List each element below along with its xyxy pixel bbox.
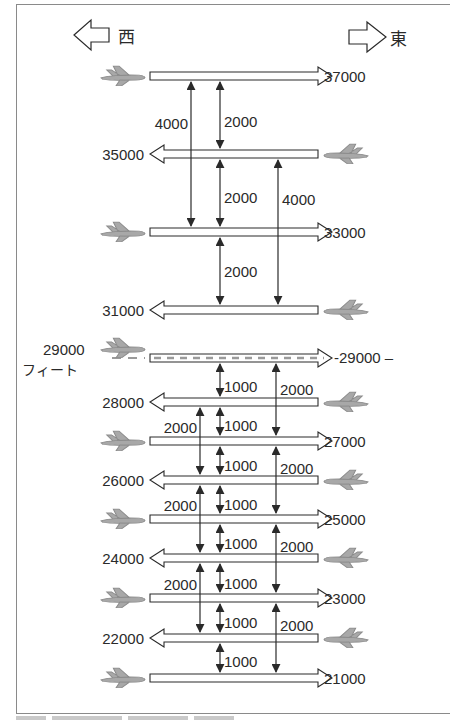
airplane-icon bbox=[101, 66, 145, 86]
separation-label: 2000 bbox=[224, 113, 257, 130]
separation-28000-27000: 1000 bbox=[220, 408, 257, 435]
east-direction: 東 bbox=[349, 22, 407, 52]
right-arrow-icon bbox=[349, 22, 386, 52]
separation-label: 4000 bbox=[282, 191, 315, 208]
airplane-icon bbox=[101, 588, 145, 608]
separation-27000-26000: 1000 bbox=[220, 447, 257, 474]
separation-label: 2000 bbox=[280, 617, 313, 634]
altitude-label: 25000 bbox=[324, 511, 366, 528]
airplane-icon bbox=[101, 431, 145, 451]
east-label: 東 bbox=[390, 29, 407, 49]
altitude-label: 35000 bbox=[102, 146, 144, 163]
eastbound-track-arrow bbox=[150, 349, 332, 367]
airplane-icon bbox=[324, 392, 368, 412]
airplane-icon bbox=[101, 222, 145, 242]
flight-level-35000: 35000 bbox=[102, 144, 368, 164]
airplane-icon bbox=[324, 548, 368, 568]
altitude-label: 27000 bbox=[324, 433, 366, 450]
altitude-label-left: 29000 bbox=[43, 341, 85, 358]
separation-label: 4000 bbox=[155, 115, 188, 132]
flight-levels: 37000350003300031000-29000 –290002800027… bbox=[43, 66, 394, 688]
separation-label: 2000 bbox=[280, 538, 313, 555]
eastbound-track-arrow bbox=[150, 669, 332, 687]
flight-level-diagram: 西 東 37000350003300031000-29000 –29000280… bbox=[0, 0, 451, 723]
airplane-icon bbox=[324, 470, 368, 490]
flight-level-33000: 33000 bbox=[101, 222, 366, 242]
separation-33000-31000: 2000 bbox=[220, 238, 257, 304]
separation-label: 1000 bbox=[224, 457, 257, 474]
separation-label: 1000 bbox=[224, 378, 257, 395]
unit-label: フィート bbox=[22, 362, 78, 378]
flight-level-31000: 31000 bbox=[102, 300, 368, 320]
altitude-label: 37000 bbox=[324, 68, 366, 85]
airplane-icon bbox=[324, 300, 368, 320]
separation-label: 2000 bbox=[164, 497, 197, 514]
separation-23000-22000: 1000 bbox=[220, 604, 257, 632]
separation-35000-33000: 2000 bbox=[220, 160, 257, 226]
separation-label: 2000 bbox=[164, 576, 197, 593]
separation-markers: 4000200020004000200010002000200010001000… bbox=[155, 82, 316, 672]
separation-label: 1000 bbox=[224, 417, 257, 434]
altitude-label: 24000 bbox=[102, 550, 144, 567]
flight-level-28000: 28000 bbox=[102, 392, 368, 412]
separation-label: 1000 bbox=[224, 496, 257, 513]
separation-25000-24000: 1000 bbox=[220, 525, 257, 552]
separation-label: 1000 bbox=[224, 614, 257, 631]
separation-22000-21000: 1000 bbox=[220, 644, 257, 672]
separation-label: 1000 bbox=[224, 535, 257, 552]
airplane-icon bbox=[101, 668, 145, 688]
altitude-label: 33000 bbox=[324, 224, 366, 241]
westbound-track-arrow bbox=[150, 301, 318, 319]
altitude-label: 26000 bbox=[102, 472, 144, 489]
airplane-icon bbox=[324, 628, 368, 648]
left-arrow-icon bbox=[74, 20, 109, 50]
altitude-label: 31000 bbox=[102, 302, 144, 319]
altitude-label: 23000 bbox=[324, 590, 366, 607]
flight-level-21000: 21000 bbox=[101, 668, 366, 688]
westbound-track-arrow bbox=[150, 145, 318, 163]
flight-level-37000: 37000 bbox=[101, 66, 366, 86]
airplane-icon bbox=[101, 338, 145, 358]
separation-37000-35000: 2000 bbox=[220, 82, 257, 148]
figure-caption-cropped bbox=[16, 716, 450, 723]
altitude-label: 21000 bbox=[324, 670, 366, 687]
separation-label: 2000 bbox=[280, 460, 313, 477]
separation-label: 2000 bbox=[224, 189, 257, 206]
separation-label: 2000 bbox=[224, 263, 257, 280]
separation-label: 1000 bbox=[224, 575, 257, 592]
separation-29000-28000: 1000 bbox=[220, 364, 257, 396]
separation-label: 1000 bbox=[224, 653, 257, 670]
west-direction: 西 bbox=[74, 20, 135, 50]
west-label: 西 bbox=[118, 27, 135, 47]
separation-label: 2000 bbox=[164, 419, 197, 436]
eastbound-track-arrow bbox=[150, 67, 332, 85]
altitude-label: 28000 bbox=[102, 394, 144, 411]
separation-24000-23000: 1000 bbox=[220, 564, 257, 592]
airplane-icon bbox=[101, 509, 145, 528]
altitude-label: -29000 – bbox=[334, 349, 394, 366]
flight-level-29000: -29000 –29000 bbox=[43, 338, 394, 367]
flight-level-27000: 27000 bbox=[101, 431, 366, 451]
separation-26000-25000: 1000 bbox=[220, 486, 257, 513]
eastbound-track-arrow bbox=[150, 223, 332, 241]
flight-level-22000: 22000 bbox=[102, 628, 368, 648]
separation-label: 2000 bbox=[280, 381, 313, 398]
altitude-label: 22000 bbox=[102, 630, 144, 647]
airplane-icon bbox=[324, 144, 368, 164]
